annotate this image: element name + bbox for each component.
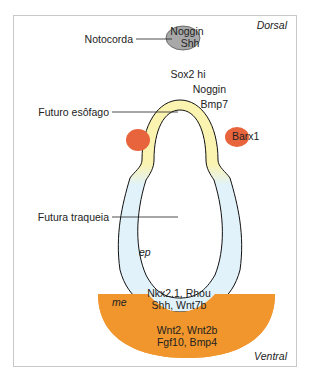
ep-label: ep [139, 246, 151, 258]
notochord-gene-shh: Shh [181, 37, 200, 49]
foregut-diagram: Dorsal Ventral Notocorda Noggin Shh Sox2… [0, 0, 312, 381]
sox2-label: Sox2 hi [170, 68, 205, 80]
barx1-spot-left [126, 129, 150, 151]
trachea-label: Futura traqueia [38, 211, 109, 223]
notochord-label: Notocorda [85, 33, 134, 45]
noggin-label: Noggin [193, 83, 226, 95]
mesoderm-genes-2: Fgf10, Bmp4 [157, 336, 217, 348]
esophagus-label: Futuro esôfago [38, 106, 109, 118]
trachea-genes-2: Shh, Wnt7b [152, 299, 207, 311]
mesoderm-genes-1: Wnt2, Wnt2b [157, 324, 218, 336]
barx1-label: Barx1 [232, 130, 260, 142]
trachea-genes-1: Nkx2.1, Rhou [147, 287, 211, 299]
dorsal-label: Dorsal [257, 19, 288, 31]
me-label: me [112, 296, 127, 308]
bmp7-label: Bmp7 [201, 98, 229, 110]
notochord-gene-noggin: Noggin [170, 25, 203, 37]
ventral-label: Ventral [254, 350, 288, 362]
